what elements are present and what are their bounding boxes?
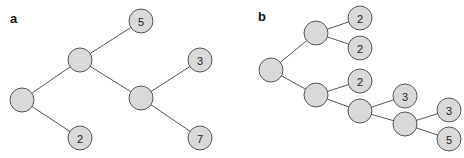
edges [22, 21, 200, 138]
node-label: 3 [402, 91, 408, 103]
internal-node [129, 86, 153, 110]
node-circle [10, 88, 34, 112]
leaf-node: 2 [348, 6, 372, 30]
panel-a: 5237 a [10, 9, 212, 150]
leaf-node: 3 [188, 48, 212, 72]
tree-diagram: 5237 a 222335 b [0, 0, 464, 158]
node-circle [68, 48, 92, 72]
node-label: 3 [197, 55, 203, 67]
leaf-node: 5 [437, 127, 461, 151]
node-circle [259, 58, 283, 82]
node-circle [393, 112, 417, 136]
node-label: 3 [446, 105, 452, 117]
internal-node [304, 83, 328, 107]
internal-node [68, 48, 92, 72]
node-label: 2 [357, 76, 363, 88]
node-label: 7 [197, 133, 203, 145]
leaf-node: 3 [437, 98, 461, 122]
leaf-node: 2 [348, 69, 372, 93]
node-circle [304, 21, 328, 45]
node-label: 5 [138, 16, 144, 28]
node-label: 2 [77, 133, 83, 145]
panel-b: 222335 b [258, 6, 461, 151]
leaf-node: 2 [348, 36, 372, 60]
internal-node [259, 58, 283, 82]
node-label: 2 [357, 13, 363, 25]
panel-label: b [258, 9, 266, 24]
internal-node [393, 112, 417, 136]
leaf-node: 5 [129, 9, 153, 33]
node-circle [304, 83, 328, 107]
node-label: 2 [357, 43, 363, 55]
leaf-node: 7 [188, 126, 212, 150]
panel-label: a [10, 11, 18, 26]
internal-node [304, 21, 328, 45]
node-label: 5 [446, 134, 452, 146]
leaf-node: 3 [393, 84, 417, 108]
leaf-node: 2 [68, 126, 92, 150]
internal-node [10, 88, 34, 112]
internal-node [348, 99, 372, 123]
nodes: 222335 [259, 6, 461, 151]
node-circle [129, 86, 153, 110]
node-circle [348, 99, 372, 123]
